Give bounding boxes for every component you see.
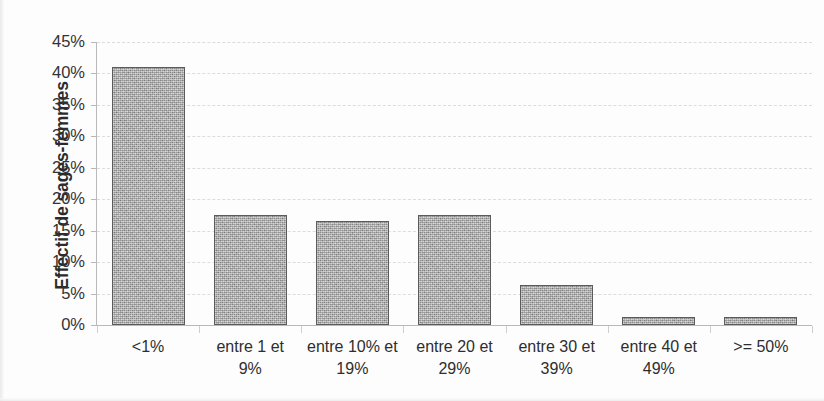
y-tick-label-20: 20% [35, 190, 85, 207]
x-tick-label-line: 29% [405, 358, 503, 380]
x-tick-label-line: 39% [508, 358, 606, 380]
scan-edge-left [0, 0, 4, 401]
x-tick-mark-5 [608, 326, 609, 333]
bar-1 [112, 67, 185, 325]
x-tick-mark-3 [403, 326, 404, 333]
x-tick-mark-2 [301, 326, 302, 333]
x-tick-label-line: entre 10% et [303, 336, 401, 358]
x-tick-label-line: entre 1 et [201, 336, 299, 358]
x-tick-label-5: entre 30 et39% [508, 336, 606, 379]
x-tick-label-2: entre 1 et9% [201, 336, 299, 379]
x-tick-label-line: >= 50% [712, 336, 810, 358]
x-tick-mark-0 [97, 326, 98, 333]
x-tick-label-line: entre 40 et [610, 336, 708, 358]
bar-2 [214, 215, 287, 325]
y-tick-mark-25 [91, 168, 97, 169]
x-tick-mark-4 [506, 326, 507, 333]
y-tick-label-40: 40% [35, 64, 85, 81]
x-tick-label-line: entre 30 et [508, 336, 606, 358]
x-tick-label-line: 9% [201, 358, 299, 380]
plot-area [97, 42, 812, 325]
y-axis-tick-labels: 0%5%10%15%20%25%30%35%40%45% [30, 0, 85, 401]
x-tick-label-6: entre 40 et49% [610, 336, 708, 379]
y-tick-mark-15 [91, 231, 97, 232]
y-tick-label-5: 5% [35, 285, 85, 302]
y-tick-label-30: 30% [35, 127, 85, 144]
y-tick-mark-5 [91, 294, 97, 295]
x-axis-tick-labels: <1%entre 1 et9%entre 10% et19%entre 20 e… [97, 336, 812, 398]
x-tick-label-line: 19% [303, 358, 401, 380]
y-tick-mark-35 [91, 105, 97, 106]
y-tick-label-10: 10% [35, 253, 85, 270]
x-tick-label-3: entre 10% et19% [303, 336, 401, 379]
y-tick-label-0: 0% [35, 316, 85, 333]
y-tick-mark-45 [91, 42, 97, 43]
y-tick-label-35: 35% [35, 96, 85, 113]
bar-series [97, 42, 812, 325]
x-tick-label-7: >= 50% [712, 336, 810, 358]
bar-3 [316, 221, 389, 325]
bar-7 [724, 317, 797, 325]
bar-6 [622, 317, 695, 325]
bar-4 [418, 215, 491, 325]
x-tick-label-line: <1% [99, 336, 197, 358]
x-tick-label-1: <1% [99, 336, 197, 358]
bar-5 [520, 285, 593, 325]
y-tick-mark-20 [91, 199, 97, 200]
y-tick-label-45: 45% [35, 33, 85, 50]
y-tick-label-15: 15% [35, 222, 85, 239]
y-tick-label-25: 25% [35, 159, 85, 176]
x-tick-label-line: 49% [610, 358, 708, 380]
x-tick-mark-1 [199, 326, 200, 333]
bar-chart-figure: Effectif de sages-femmes 0%5%10%15%20%25… [0, 0, 824, 401]
x-tick-label-line: entre 20 et [405, 336, 503, 358]
y-tick-mark-40 [91, 73, 97, 74]
x-tick-mark-end [812, 326, 813, 333]
y-tick-mark-30 [91, 136, 97, 137]
y-tick-mark-10 [91, 262, 97, 263]
x-tick-label-4: entre 20 et29% [405, 336, 503, 379]
x-tick-mark-6 [710, 326, 711, 333]
x-axis-line [97, 325, 812, 326]
